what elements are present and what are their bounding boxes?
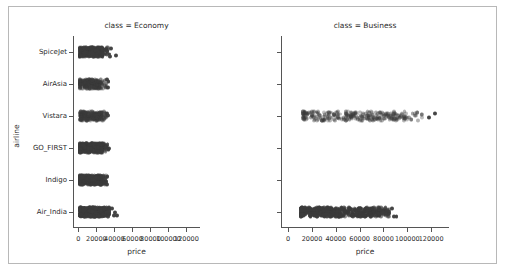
x-tick <box>78 228 79 232</box>
strip-economy-vistara <box>73 110 200 123</box>
x-tick <box>336 228 337 232</box>
plot-area-business: 020000400006000080000100000120000 <box>281 36 449 228</box>
plot-area-economy: SpiceJetAirAsiaVistaraGO_FIRSTIndigoAir_… <box>73 36 200 228</box>
figure-canvas: airline class = Economy SpiceJetAirAsiaV… <box>0 0 505 272</box>
y-tick <box>277 52 281 53</box>
x-tick <box>312 228 313 232</box>
strip-economy-airasia <box>73 78 200 91</box>
y-tick <box>277 148 281 149</box>
x-tick-label: 0 <box>76 235 80 243</box>
y-tick-label-vistara: Vistara <box>43 112 67 120</box>
y-axis-label: airline <box>12 124 21 147</box>
y-axis-spine <box>281 36 282 228</box>
x-tick-label: 120000 <box>419 235 444 243</box>
y-tick-label-indigo: Indigo <box>45 176 67 184</box>
y-tick-label-go_first: GO_FIRST <box>33 144 67 152</box>
x-axis-label-economy: price <box>73 247 200 256</box>
x-tick <box>383 228 384 232</box>
strip-economy-air_india <box>73 206 200 219</box>
x-tick-label: 20000 <box>302 235 323 243</box>
x-tick-label: 100000 <box>395 235 420 243</box>
strip-business-air_india <box>281 206 449 219</box>
x-axis-spine <box>73 227 200 228</box>
x-tick-label: 120000 <box>174 235 199 243</box>
facet-panel-business: class = Business 02000040000600008000010… <box>281 36 449 228</box>
y-tick-label-spicejet: SpiceJet <box>39 48 67 56</box>
x-tick-label: 80000 <box>373 235 394 243</box>
strip-economy-go_first <box>73 142 200 155</box>
y-tick-label-airasia: AirAsia <box>43 80 67 88</box>
x-tick <box>431 228 432 232</box>
x-tick <box>96 228 97 232</box>
x-tick <box>186 228 187 232</box>
x-tick <box>150 228 151 232</box>
x-tick-label: 0 <box>286 235 290 243</box>
x-tick <box>360 228 361 232</box>
x-tick <box>168 228 169 232</box>
x-tick <box>407 228 408 232</box>
y-axis-spine <box>73 36 74 228</box>
y-tick <box>277 84 281 85</box>
y-tick <box>277 180 281 181</box>
strip-economy-indigo <box>73 174 200 187</box>
x-tick-label: 40000 <box>325 235 346 243</box>
x-tick <box>132 228 133 232</box>
y-tick-label-air_india: Air_India <box>37 208 67 216</box>
strip-business-vistara <box>281 110 449 123</box>
facet-title-business: class = Business <box>241 21 489 30</box>
x-tick-label: 60000 <box>349 235 370 243</box>
x-tick <box>288 228 289 232</box>
facet-panel-economy: class = Economy SpiceJetAirAsiaVistaraGO… <box>73 36 200 228</box>
x-axis-label-business: price <box>281 247 449 256</box>
x-tick <box>114 228 115 232</box>
x-axis-spine <box>281 227 449 228</box>
facet-title-economy: class = Economy <box>33 21 240 30</box>
strip-economy-spicejet <box>73 46 200 59</box>
